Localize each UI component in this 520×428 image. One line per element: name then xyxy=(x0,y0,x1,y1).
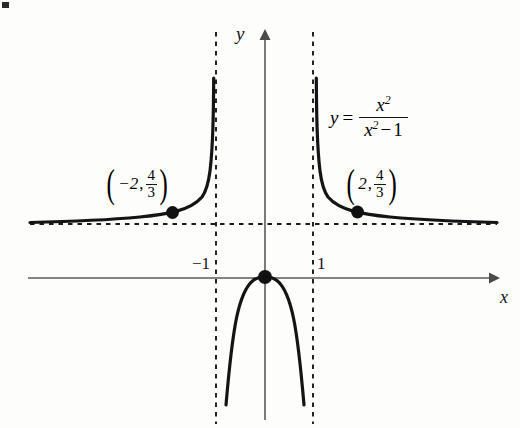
right-close-paren: ) xyxy=(388,170,396,199)
equation-numerator: x2 xyxy=(371,94,395,117)
equation-lhs: y xyxy=(330,107,338,129)
left-open-paren: ( xyxy=(107,170,115,199)
marker-point-left xyxy=(166,206,179,219)
point-label-right: ( 2 , 4 3 ) xyxy=(344,168,399,201)
x-axis-label: x xyxy=(500,288,508,306)
left-point-y-fraction: 4 3 xyxy=(146,168,158,201)
numerator-base: x xyxy=(376,94,384,115)
left-point-y-denominator: 3 xyxy=(146,185,158,201)
right-point-y-numerator: 4 xyxy=(374,168,386,184)
figure-container: y x −1 1 y = x2 x2−1 ( −2 , 4 3 ) ( 2 , … xyxy=(0,0,520,428)
left-close-paren: ) xyxy=(160,170,168,199)
numerator-exponent: 2 xyxy=(385,94,391,107)
right-point-y-denominator: 3 xyxy=(374,185,386,201)
right-point-x-value: 2 xyxy=(357,174,368,194)
y-axis-label: y xyxy=(236,24,244,43)
left-point-x-value: −2 xyxy=(117,174,139,194)
marker-point-right xyxy=(351,206,364,219)
tick-label-negative-one: −1 xyxy=(192,255,210,272)
marker-point-origin xyxy=(258,270,272,284)
left-point-y-numerator: 4 xyxy=(146,168,158,184)
equation-denominator: x2−1 xyxy=(359,118,408,141)
equation-equals-sign: = xyxy=(342,107,353,129)
graph-canvas xyxy=(0,0,520,428)
tick-label-positive-one: 1 xyxy=(317,255,326,272)
equation-annotation: y = x2 x2−1 xyxy=(330,94,408,141)
equation-fraction: x2 x2−1 xyxy=(359,94,408,141)
right-point-y-fraction: 4 3 xyxy=(374,168,386,201)
denominator-constant: 1 xyxy=(393,119,403,140)
curve-left-branch xyxy=(30,78,214,223)
denominator-base: x xyxy=(364,119,372,140)
right-open-paren: ( xyxy=(347,170,355,199)
denominator-operator: − xyxy=(378,119,393,140)
point-label-left: ( −2 , 4 3 ) xyxy=(104,168,170,201)
